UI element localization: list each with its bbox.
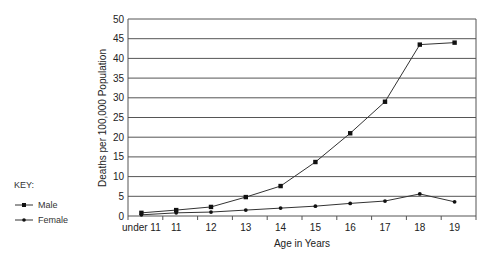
svg-text:14: 14 [275,222,287,233]
svg-text:under 11: under 11 [122,222,161,233]
svg-text:19: 19 [449,222,461,233]
svg-text:16: 16 [345,222,357,233]
svg-text:20: 20 [113,132,125,143]
line-chart: 05101520253035404550 under 1111121314151… [0,0,495,264]
svg-text:30: 30 [113,92,125,103]
y-axis-label: Deaths per 100,000 Population [97,49,108,187]
svg-text:13: 13 [240,222,252,233]
legend-item-male: Male [14,197,68,212]
svg-text:15: 15 [310,222,322,233]
x-axis-ticks: under 11111213141516171819 [122,216,476,233]
svg-text:40: 40 [113,53,125,64]
gridlines [128,19,476,216]
svg-text:5: 5 [118,191,124,202]
svg-text:12: 12 [205,222,217,233]
svg-text:35: 35 [113,73,125,84]
data-series [139,40,457,216]
y-axis-ticks: 05101520253035404550 [113,14,125,222]
legend-item-female: Female [14,212,68,227]
dot-marker-icon [14,216,34,224]
svg-text:25: 25 [113,112,125,123]
legend: KEY: Male Female [14,180,68,227]
svg-text:18: 18 [414,222,426,233]
square-marker-icon [14,201,34,209]
legend-label: Male [38,200,58,210]
svg-text:0: 0 [118,211,124,222]
svg-text:45: 45 [113,33,125,44]
x-axis-label: Age in Years [274,238,330,249]
svg-text:17: 17 [379,222,391,233]
legend-label: Female [38,215,68,225]
svg-text:50: 50 [113,14,125,25]
svg-text:15: 15 [113,151,125,162]
svg-text:11: 11 [171,222,182,233]
legend-title: KEY: [14,180,68,190]
svg-text:10: 10 [113,171,125,182]
